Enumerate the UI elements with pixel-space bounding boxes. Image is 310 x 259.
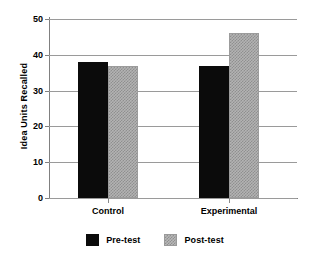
y-axis-title: Idea Units Recalled: [19, 41, 29, 171]
y-tick-mark: [45, 198, 49, 199]
bar-chart: Idea Units Recalled 50403020100 ControlE…: [0, 0, 310, 259]
y-tick-mark: [45, 19, 49, 20]
legend-swatch-pre-test-icon: [86, 234, 99, 246]
y-tick-label: 0: [38, 193, 43, 203]
y-tick-mark: [45, 91, 49, 92]
category-tick: [229, 198, 230, 203]
bar-experimental-post-test: [229, 33, 259, 198]
gridline: [49, 55, 297, 56]
gridline: [49, 19, 297, 20]
legend-item-post-test[interactable]: Post-test: [164, 234, 223, 246]
chart-legend: Pre-test Post-test: [0, 234, 310, 246]
y-tick-mark: [45, 55, 49, 56]
bar-control-pre-test: [78, 62, 108, 198]
legend-label-pre-test: Pre-test: [106, 235, 140, 245]
legend-label-post-test: Post-test: [184, 235, 223, 245]
legend-item-pre-test[interactable]: Pre-test: [86, 234, 140, 246]
y-tick-label: 30: [33, 86, 43, 96]
category-tick: [108, 198, 109, 203]
category-label-control: Control: [92, 206, 124, 216]
y-tick-label: 50: [33, 14, 43, 24]
y-tick-mark: [45, 162, 49, 163]
bar-control-post-test: [108, 66, 138, 198]
y-tick-label: 20: [33, 121, 43, 131]
y-tick-label: 10: [33, 157, 43, 167]
y-tick-label: 40: [33, 50, 43, 60]
y-tick-mark: [45, 126, 49, 127]
plot-area: 50403020100: [49, 19, 297, 198]
bar-experimental-pre-test: [199, 66, 229, 198]
legend-swatch-post-test-icon: [164, 234, 177, 246]
gridline: [49, 198, 297, 199]
category-label-experimental: Experimental: [201, 206, 258, 216]
